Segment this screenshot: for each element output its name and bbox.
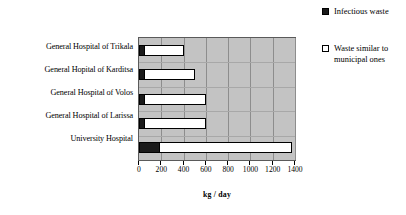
x-axis-tick-label: 600 xyxy=(200,165,211,174)
bar-row xyxy=(139,45,184,56)
chart-legend: Infectious waste Waste similar to munici… xyxy=(322,6,406,91)
bar-row xyxy=(139,69,195,80)
y-axis-label-karditsa: General Hopital of Karditsa xyxy=(0,65,133,74)
legend-swatch-infectious-icon xyxy=(322,8,329,15)
row-separator xyxy=(139,87,295,88)
y-axis-label-university-hospital: University Hospital xyxy=(0,134,133,143)
row-separator xyxy=(139,111,295,112)
x-axis-tick-labels: 0200400600800100012001400 xyxy=(0,165,406,177)
y-axis-label-volos: General Hospital of Volos xyxy=(0,88,133,97)
y-axis-category-labels: General Hospital of Trikala General Hopi… xyxy=(0,38,136,158)
x-axis-tick-label: 0 xyxy=(137,165,141,174)
bar-row xyxy=(139,142,292,153)
plot-area xyxy=(138,37,296,161)
x-axis-title: kg / day xyxy=(138,190,296,199)
legend-entry-infectious-waste: Infectious waste xyxy=(322,6,406,17)
row-separator xyxy=(139,136,295,137)
legend-label-municipal: Waste similar to municipal ones xyxy=(334,43,406,65)
x-axis-tick-label: 1000 xyxy=(243,165,258,174)
legend-label-infectious: Infectious waste xyxy=(334,6,406,17)
y-axis-label-trikala: General Hospital of Trikala xyxy=(0,42,133,51)
bar-row xyxy=(139,118,206,129)
bar-segment-municipal xyxy=(159,142,292,153)
legend-swatch-municipal-icon xyxy=(322,45,329,52)
x-axis-tick-label: 1400 xyxy=(287,165,302,174)
bar-segment-municipal xyxy=(144,94,206,105)
x-axis-tick-label: 800 xyxy=(222,165,233,174)
bar-segment-municipal xyxy=(144,45,184,56)
x-axis-tick-label: 400 xyxy=(178,165,189,174)
row-separator xyxy=(139,62,295,63)
x-axis-tick-label: 1200 xyxy=(265,165,280,174)
bar-segment-infectious xyxy=(139,142,159,153)
legend-entry-municipal-waste: Waste similar to municipal ones xyxy=(322,43,406,65)
x-axis-tick-label: 200 xyxy=(156,165,167,174)
y-axis-label-larissa: General Hospital of Larissa xyxy=(0,111,133,120)
chart-figure: General Hospital of Trikala General Hopi… xyxy=(0,0,406,215)
gridline-1400 xyxy=(295,38,296,160)
bar-segment-municipal xyxy=(144,69,195,80)
bar-segment-municipal xyxy=(144,118,206,129)
bar-row xyxy=(139,94,206,105)
